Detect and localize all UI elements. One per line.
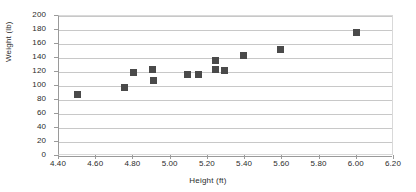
plot-area: [58, 15, 393, 155]
y-axis-tick-label: 40: [0, 123, 46, 131]
y-axis-tick-label: 20: [0, 137, 46, 145]
data-point: [212, 66, 219, 73]
x-axis-tick-label: 6.00: [336, 160, 376, 168]
data-point: [353, 29, 360, 36]
x-axis-tick-label: 6.20: [373, 160, 413, 168]
gridline: [59, 16, 392, 17]
gridline: [59, 100, 392, 101]
gridline: [59, 128, 392, 129]
data-point: [240, 52, 247, 59]
x-axis-tick-label: 5.80: [299, 160, 339, 168]
gridline: [59, 44, 392, 45]
gridline: [59, 30, 392, 31]
data-point: [121, 84, 128, 91]
y-axis-tick-label: 100: [0, 81, 46, 89]
data-point: [221, 67, 228, 74]
x-axis-tick-label: 4.60: [75, 160, 115, 168]
x-axis-tick-label: 5.00: [150, 160, 190, 168]
x-axis-tick-label: 4.80: [112, 160, 152, 168]
y-axis-tick-label: 200: [0, 11, 46, 19]
y-axis-title: Weight (lb): [4, 21, 13, 62]
y-axis-tick-label: 120: [0, 67, 46, 75]
gridline: [59, 142, 392, 143]
x-axis-title: Height (ft): [0, 176, 416, 185]
data-point: [74, 91, 81, 98]
gridline: [59, 86, 392, 87]
data-point: [195, 71, 202, 78]
data-point: [149, 66, 156, 73]
gridline: [59, 114, 392, 115]
x-axis-tick-label: 5.20: [187, 160, 227, 168]
data-point: [277, 46, 284, 53]
y-axis-tick-label: 0: [0, 151, 46, 159]
x-axis-tick-label: 4.40: [38, 160, 78, 168]
data-point: [130, 69, 137, 76]
y-axis-tick-label: 80: [0, 95, 46, 103]
scatter-chart: 020406080100120140160180200 4.404.604.80…: [0, 0, 416, 192]
y-axis-tick-label: 60: [0, 109, 46, 117]
gridline: [59, 156, 392, 157]
data-point: [184, 71, 191, 78]
x-axis-tick-label: 5.40: [224, 160, 264, 168]
data-point: [150, 77, 157, 84]
x-axis-tick-label: 5.60: [261, 160, 301, 168]
gridline: [59, 58, 392, 59]
data-point: [212, 57, 219, 64]
